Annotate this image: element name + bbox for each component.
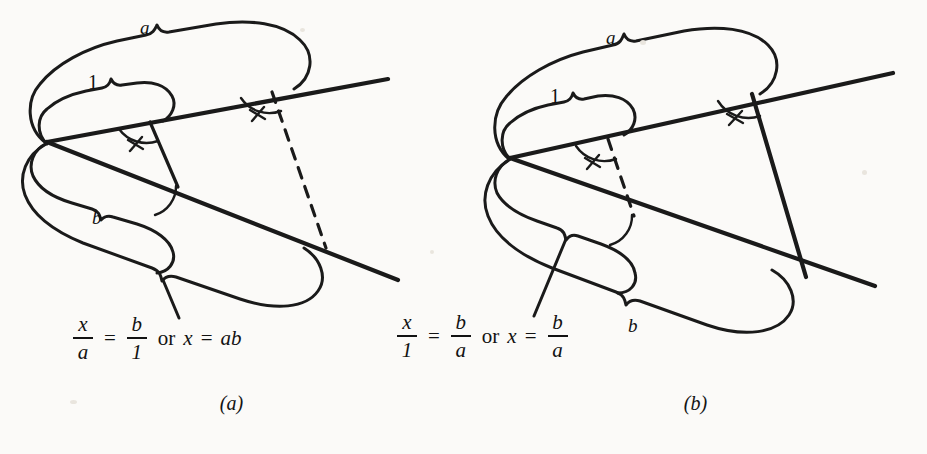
fraction-result-numerator-b: b [548, 310, 567, 334]
result-value-a: ab [221, 326, 242, 351]
figure-a-drawing [0, 0, 463, 300]
figure-b: a 1 b x 1 = b a or x = b a ( [464, 0, 927, 454]
fraction-right-denominator-a: 1 [128, 340, 147, 364]
label-inner-top-b: 1 [550, 86, 560, 106]
transversal-1-a [150, 122, 178, 187]
fraction-left-a: x a [73, 312, 93, 364]
fraction-left-numerator-a: x [74, 312, 91, 336]
caption-a: (a) [0, 392, 463, 415]
result-equals-sign-b: = [525, 324, 537, 349]
result-variable-a: x [183, 326, 192, 351]
result-equals-sign-a: = [201, 326, 213, 351]
caption-b: (b) [464, 392, 927, 415]
transversal-2-dashed-a [272, 92, 326, 248]
angle-arc-lower-b [610, 215, 632, 245]
label-lower-b: b [628, 316, 638, 335]
figure-a: a 1 b x a = b 1 or x = ab (a) [0, 0, 463, 454]
lower-ray-b [510, 158, 875, 286]
transversal-1-dashed-b [608, 139, 634, 216]
fraction-left-denominator-b: 1 [398, 338, 417, 362]
connector-word-b: or [482, 324, 500, 349]
connector-word-a: or [158, 326, 176, 351]
equals-sign-b: = [428, 324, 440, 349]
fraction-right-numerator-a: b [128, 312, 147, 336]
label-outer-top-b: a [606, 28, 616, 47]
fraction-right-bar-a [127, 337, 147, 339]
fraction-right-b: b a [451, 310, 471, 362]
result-variable-b: x [507, 324, 516, 349]
fraction-right-a: b 1 [127, 312, 147, 364]
brace-outer-top-b [495, 28, 777, 159]
brace-outer-bottom-b [485, 160, 793, 332]
label-lower-a: b [92, 208, 102, 227]
fraction-result-denominator-b: a [548, 338, 567, 362]
fraction-left-bar-a [73, 337, 93, 339]
equation-b: x 1 = b a or x = b a [392, 310, 573, 362]
fraction-left-numerator-b: x [398, 310, 415, 334]
figure-b-drawing [464, 0, 927, 300]
equation-a: x a = b 1 or x = ab [68, 312, 244, 364]
label-outer-top-a: a [140, 18, 150, 37]
transversal-2-b [752, 94, 806, 277]
fraction-result-b: b a [548, 310, 568, 362]
diagram-page: a 1 b x a = b 1 or x = ab (a) [0, 0, 927, 454]
fraction-right-numerator-b: b [452, 310, 471, 334]
fraction-left-bar-b [397, 335, 417, 337]
label-inner-top-a: 1 [88, 72, 98, 92]
fraction-right-denominator-b: a [452, 338, 471, 362]
equals-sign-a: = [104, 326, 116, 351]
brace-inner-top-b [502, 93, 635, 159]
fraction-left-denominator-a: a [74, 340, 93, 364]
upper-ray-b [510, 73, 893, 158]
fraction-left-b: x 1 [397, 310, 417, 362]
fraction-right-bar-b [451, 335, 471, 337]
brace-pointer-x-b [534, 239, 566, 316]
brace-outer-bottom-a [23, 144, 323, 306]
fraction-result-bar-b [548, 335, 568, 337]
brace-outer-top-a [30, 22, 310, 143]
